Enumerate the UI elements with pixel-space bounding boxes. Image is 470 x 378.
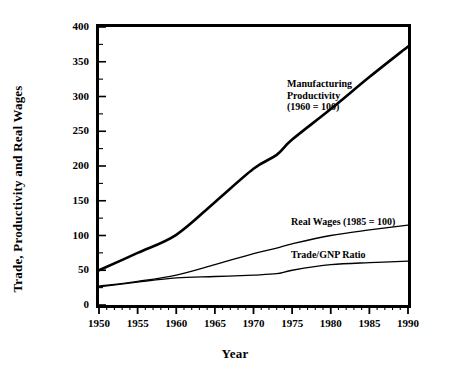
y-tick-label: 0: [84, 298, 90, 310]
plot-frame: [98, 26, 410, 307]
y-tick-label: 350: [73, 55, 90, 67]
y-axis-title: Trade, Productivity and Real Wages: [10, 85, 26, 292]
y-tick-label: 150: [73, 194, 90, 206]
x-axis-title: Year: [222, 346, 249, 361]
annotation-trade_gnp: Trade/GNP Ratio: [291, 249, 366, 261]
y-tick-label: 100: [73, 229, 90, 241]
y-tick-label: 400: [73, 20, 90, 32]
y-tick-label: 300: [73, 90, 90, 102]
y-tick-label: 50: [78, 263, 89, 275]
y-axis-title-wrap: Trade, Productivity and Real Wages: [6, 0, 30, 378]
chart-figure: Trade, Productivity and Real Wages Year …: [0, 0, 470, 378]
y-tick-label: 250: [73, 124, 90, 136]
annotation-manufacturing: Manufacturing Productivity (1960 = 100): [287, 78, 352, 113]
x-axis-title-wrap: Year: [0, 344, 470, 362]
annotation-real_wages: Real Wages (1985 = 100): [291, 216, 395, 228]
y-tick-label: 200: [73, 159, 90, 171]
x-tick-label: 1990: [383, 317, 433, 329]
